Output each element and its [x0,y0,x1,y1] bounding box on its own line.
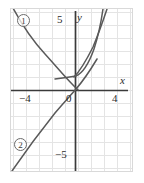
x-axis-name: x [120,74,125,86]
x-tick-label-0: 0 [66,92,72,104]
y-axis-name: y [77,11,82,23]
curve-marker-one: 1 [17,14,30,27]
x-tick-label-negative-4: −4 [19,92,31,104]
y-tick-label-negative-5: −5 [55,148,67,160]
y-tick-label-5: 5 [57,13,63,25]
chart-figure: 5 −5 −4 0 4 x y 1 2 [0,0,144,183]
x-tick-label-4: 4 [112,92,118,104]
plot-canvas [11,9,132,171]
curve-marker-two: 2 [14,138,27,151]
plot-frame [10,8,133,172]
